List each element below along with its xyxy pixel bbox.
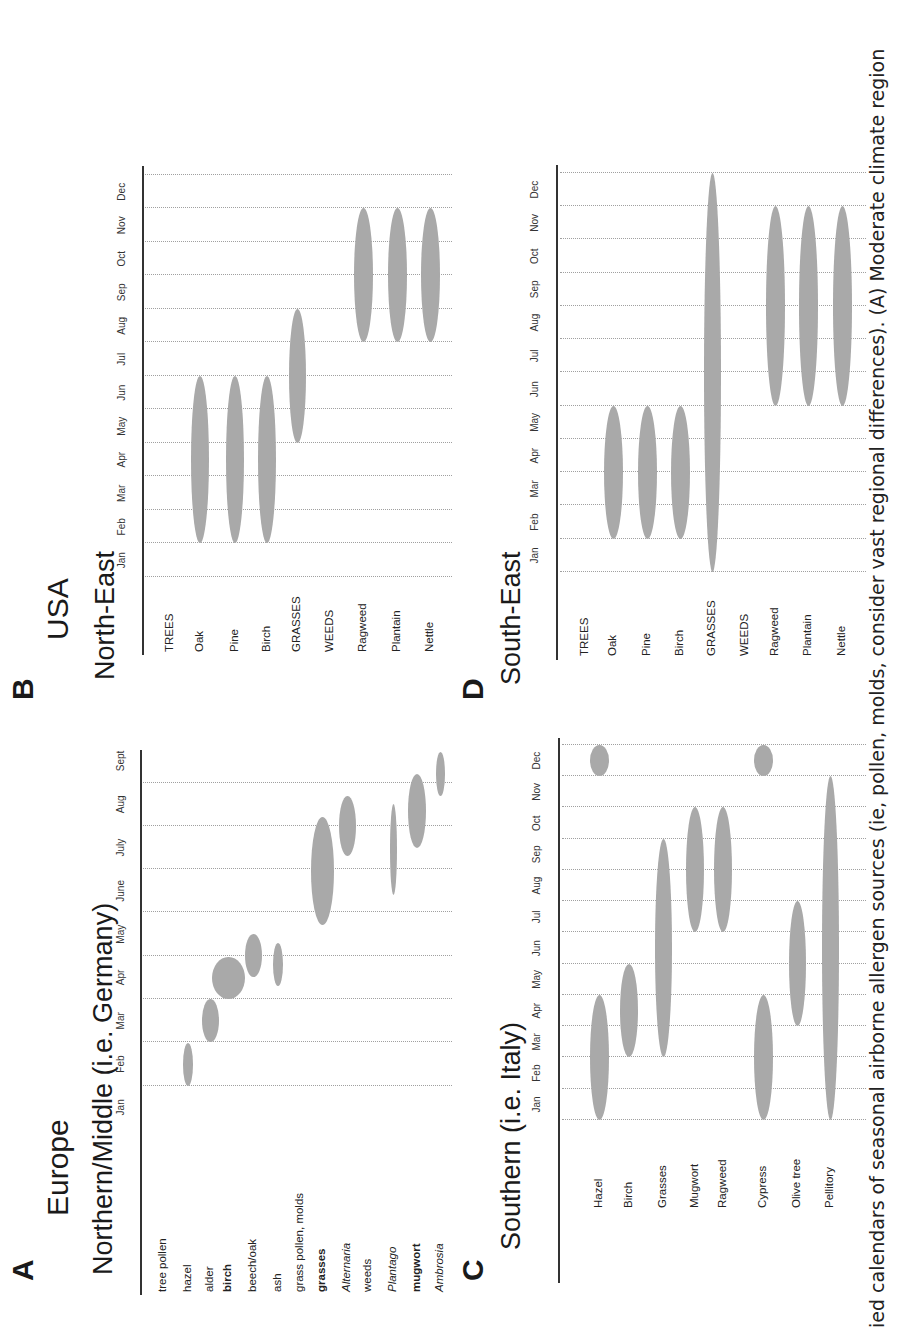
month-gridline xyxy=(562,838,866,839)
month-gridline xyxy=(143,1041,452,1042)
figure-caption: ied calendars of seasonal airborne aller… xyxy=(866,49,888,1328)
month-label: Jul xyxy=(531,901,542,932)
month-label: Nov xyxy=(529,206,540,239)
category-label: Plantain xyxy=(390,610,402,652)
season-ellipse xyxy=(766,206,785,406)
month-gridline xyxy=(562,994,866,995)
panel-letter-d: D xyxy=(458,678,488,700)
season-ellipse xyxy=(226,376,244,544)
month-label: Mar xyxy=(116,477,127,511)
month-label: Aug xyxy=(529,306,540,339)
month-gridline xyxy=(145,241,452,242)
month-label: Feb xyxy=(115,1042,126,1085)
season-ellipse xyxy=(638,406,657,539)
category-label: TREES xyxy=(163,614,175,652)
season-ellipse xyxy=(183,1043,193,1085)
month-label: Jul xyxy=(116,343,127,377)
category-label: Oak xyxy=(193,631,205,652)
month-gridline xyxy=(145,174,452,175)
month-label: Jan xyxy=(115,1086,126,1129)
season-ellipse xyxy=(799,206,818,406)
month-label: Feb xyxy=(531,1058,542,1089)
axis-line xyxy=(140,750,142,1295)
category-label: Grasses xyxy=(656,1165,668,1208)
season-ellipse xyxy=(655,839,672,1058)
month-label: May xyxy=(529,406,540,439)
region-title-europe: Europe xyxy=(42,1119,74,1216)
month-gridline xyxy=(562,744,866,745)
category-label: Alternaria xyxy=(340,1243,352,1292)
category-label: Birch xyxy=(622,1182,634,1208)
season-ellipse xyxy=(245,934,262,977)
season-ellipse xyxy=(390,804,397,895)
category-label: ash xyxy=(271,1273,283,1292)
month-label: Mar xyxy=(115,999,126,1042)
month-gridline xyxy=(145,543,452,544)
region-title-usa: USA xyxy=(42,578,74,640)
month-label: Apr xyxy=(116,443,127,477)
season-ellipse xyxy=(339,796,356,857)
season-ellipse xyxy=(273,943,283,986)
season-ellipse xyxy=(604,406,623,539)
season-ellipse xyxy=(289,309,306,443)
category-label: weeds xyxy=(361,1259,373,1292)
category-label: Olive tree xyxy=(790,1159,802,1208)
season-ellipse xyxy=(436,752,445,795)
category-label: Ambrosia xyxy=(433,1243,445,1292)
category-label: GRASSES xyxy=(705,600,717,656)
category-label: Nettle xyxy=(423,622,435,652)
category-label: mugwort xyxy=(410,1243,422,1292)
figure-page: A Europe Northern/Middle (i.e. Germany) … xyxy=(0,0,901,1328)
category-label: birch xyxy=(221,1264,233,1292)
month-label: Sep xyxy=(531,839,542,870)
month-gridline xyxy=(562,775,866,776)
month-label: Jan xyxy=(529,539,540,572)
month-gridline xyxy=(143,955,452,956)
month-label: Apr xyxy=(115,956,126,999)
category-label: beech/oak xyxy=(246,1239,258,1292)
season-ellipse xyxy=(714,808,732,933)
category-label: Nettle xyxy=(835,626,847,656)
category-label: Cypress xyxy=(756,1166,768,1208)
category-label: Pellitory xyxy=(823,1167,835,1208)
month-label: Jun xyxy=(116,376,127,410)
month-gridline xyxy=(143,782,452,783)
axis-line xyxy=(558,738,560,1283)
month-gridline xyxy=(145,576,452,577)
month-gridline xyxy=(143,825,452,826)
month-gridline xyxy=(145,208,452,209)
month-gridline xyxy=(562,963,866,964)
month-label: Jul xyxy=(529,339,540,372)
month-label: Dec xyxy=(116,175,127,209)
month-label: Sept xyxy=(115,739,126,782)
month-label: Dec xyxy=(531,745,542,776)
season-ellipse xyxy=(202,999,219,1042)
month-label: Oct xyxy=(529,240,540,273)
month-label: Feb xyxy=(529,506,540,539)
panel-letter-b: B xyxy=(8,678,38,700)
month-label: Nov xyxy=(531,776,542,807)
season-ellipse xyxy=(671,406,690,539)
month-label: Jun xyxy=(529,373,540,406)
month-gridline xyxy=(143,868,452,869)
category-label: Hazel xyxy=(592,1179,604,1208)
panel-c-title: Southern (i.e. Italy) xyxy=(496,1022,526,1250)
category-label: Ragweed xyxy=(356,603,368,652)
panel-d-title: South-East xyxy=(496,551,526,685)
month-gridline xyxy=(562,1119,866,1120)
category-label: Ragweed xyxy=(768,607,780,656)
season-ellipse xyxy=(311,817,334,925)
month-label: Nov xyxy=(116,209,127,243)
category-label: Pine xyxy=(228,629,240,652)
category-label: WEEDS xyxy=(738,614,750,656)
month-label: Jan xyxy=(116,544,127,578)
category-label: WEEDS xyxy=(323,610,335,652)
season-ellipse xyxy=(754,745,773,776)
season-ellipse xyxy=(421,209,440,343)
month-gridline xyxy=(562,900,866,901)
season-ellipse xyxy=(408,774,426,848)
season-ellipse xyxy=(354,209,373,343)
panel-letter-a: A xyxy=(8,1259,38,1281)
category-label: grasses xyxy=(315,1249,327,1292)
month-label: May xyxy=(531,964,542,995)
